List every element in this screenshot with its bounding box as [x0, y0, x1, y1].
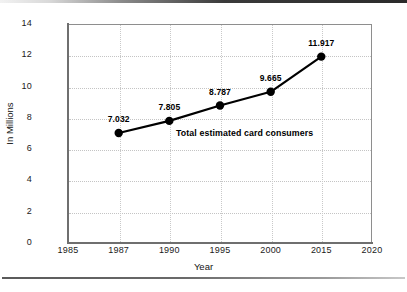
- series-annotation-label: Total estimated card consumers: [176, 128, 313, 138]
- data-point-marker: [115, 129, 123, 137]
- data-point-marker: [165, 117, 173, 125]
- data-point-value-label: 7.805: [158, 102, 180, 112]
- scanned-page: 02468101214 1985198719901995200020152020…: [0, 0, 407, 292]
- data-point-marker: [216, 101, 224, 109]
- line-chart: 02468101214 1985198719901995200020152020…: [0, 0, 407, 292]
- series-plot: [0, 0, 407, 292]
- data-point-marker: [267, 88, 275, 96]
- data-point-value-label: 11.917: [308, 38, 334, 48]
- x-axis-title: Year: [0, 261, 407, 272]
- data-point-value-label: 7.032: [108, 114, 130, 124]
- page-bottom-rule: [2, 277, 405, 279]
- data-point-marker: [317, 52, 325, 60]
- y-axis-title: In Millions: [4, 79, 15, 169]
- data-point-value-label: 8.787: [209, 87, 231, 97]
- data-point-value-label: 9.665: [260, 73, 282, 83]
